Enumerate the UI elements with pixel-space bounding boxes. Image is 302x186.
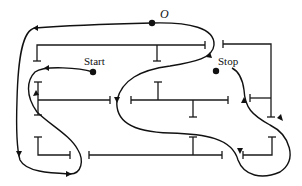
wall-bottom-right	[243, 137, 272, 155]
maze-walls	[33, 40, 276, 159]
origin-label: O	[160, 7, 169, 21]
start-dot	[90, 69, 96, 75]
stop-dot	[213, 68, 219, 74]
wall-top	[37, 45, 205, 61]
arrow-icon	[66, 171, 72, 177]
origin-dot	[149, 20, 155, 26]
maze-diagram: O Start Stop	[0, 0, 302, 186]
arrow-icon	[33, 25, 38, 31]
stop-label: Stop	[218, 55, 239, 67]
arrow-icon	[44, 65, 49, 71]
arrow-icon	[237, 148, 243, 154]
arrow-icon	[16, 151, 22, 157]
start-label: Start	[84, 55, 105, 67]
arrow-icon	[114, 97, 120, 103]
wall-bottom-left	[38, 137, 70, 155]
arrow-icon	[277, 114, 283, 121]
